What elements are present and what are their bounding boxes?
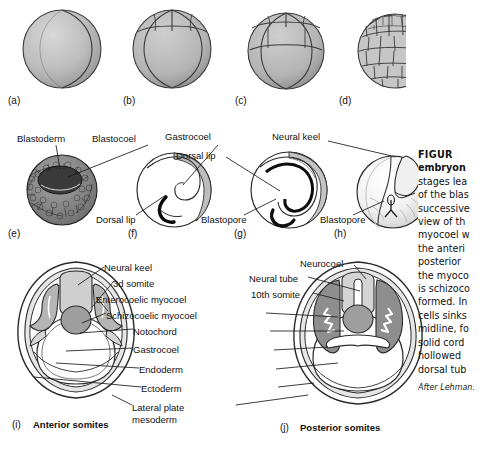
label-neurocoel: Neurocoel	[300, 258, 343, 269]
label-ectoderm: Ectoderm	[141, 383, 182, 394]
label-gastrocoel-i: Gastrocoel	[133, 344, 179, 355]
label-neural-tube: Neural tube	[249, 273, 298, 284]
caption-line-9: formed. In	[418, 295, 492, 308]
embryo-c	[248, 13, 324, 89]
caption-line-5: the anteri	[418, 242, 492, 255]
caption-line-13: hollowed	[418, 349, 492, 362]
caption-line-14: dorsal tub	[418, 363, 492, 376]
caption-line-6: posterior	[418, 255, 492, 268]
section-h-neurula	[357, 156, 418, 228]
caption-line-11: midline, fo	[418, 322, 492, 335]
panel-id-j: (j)	[280, 422, 289, 433]
label-enterocoelic-myocoel: Enterocoelic myocoel	[96, 294, 186, 305]
label-3d-somite: 3d somite	[113, 278, 154, 289]
panel-id-b: (b)	[123, 95, 135, 106]
panel-id-d: (d)	[339, 95, 351, 106]
label-notochord: Notochord	[133, 326, 177, 337]
label-lateral-plate: Lateral plate	[132, 402, 184, 413]
label-neural-keel-h: Neural keel	[272, 131, 320, 142]
embryo-b	[133, 10, 211, 88]
embryo-a	[23, 10, 101, 88]
caption-line-3: view of th	[418, 215, 492, 228]
label-dorsal-lip-g: Dorsal lip	[176, 150, 216, 161]
label-gastrocoel: Gastrocoel	[165, 131, 211, 142]
caption-figure-word: FIGUR	[418, 148, 492, 161]
panel-id-f: (f)	[128, 228, 137, 239]
caption-line-7: the myoco	[418, 269, 492, 282]
label-blastopore-h: Blastopore	[320, 214, 365, 225]
top-row-embryos	[6, 4, 406, 99]
caption-title-line: embryon	[418, 161, 492, 174]
panel-id-i: (i)	[12, 419, 21, 430]
label-blastoderm: Blastoderm	[17, 133, 65, 144]
figure-caption: FIGUR embryon stages lea of the blas suc…	[418, 148, 492, 448]
panel-id-c: (c)	[235, 95, 247, 106]
label-endoderm: Endoderm	[139, 364, 183, 375]
panel-id-a: (a)	[8, 95, 20, 106]
label-dorsal-lip-f: Dorsal lip	[96, 214, 136, 225]
diagram-j-posterior-somites	[288, 256, 433, 421]
caption-line-12: solid cord	[418, 336, 492, 349]
label-blastopore-g: Blastopore	[201, 214, 246, 225]
caption-line-2: successive	[418, 202, 492, 215]
panel-id-h: (h)	[334, 228, 346, 239]
caption-line-10: cells sinks	[418, 309, 492, 322]
caption-anterior-somites: Anterior somites	[33, 419, 109, 430]
label-neural-keel-i: Neural keel	[104, 262, 152, 273]
caption-source: After Lehman.	[418, 383, 492, 393]
section-g-late-gastrula	[251, 152, 327, 228]
label-blastocoel: Blastocoel	[92, 133, 136, 144]
panel-id-e: (e)	[8, 228, 20, 239]
caption-line-1: of the blas	[418, 188, 492, 201]
label-mesoderm: mesoderm	[132, 414, 177, 425]
caption-posterior-somites: Posterior somites	[300, 422, 380, 433]
label-schizocoelic-myocoel: Schizocoelic myocoel	[106, 310, 197, 321]
section-f-early-gastrula	[137, 153, 211, 227]
section-e-blastula	[27, 155, 97, 225]
embryo-d	[358, 14, 406, 88]
panel-id-g: (g)	[234, 228, 246, 239]
caption-line-8: is schizoco	[418, 282, 492, 295]
figure-embryonic-development: (a) (b) (c) (d)	[0, 0, 492, 459]
caption-line-0: stages lea	[418, 175, 492, 188]
label-10th-somite: 10th somite	[251, 289, 300, 300]
caption-line-4: myocoel w	[418, 228, 492, 241]
